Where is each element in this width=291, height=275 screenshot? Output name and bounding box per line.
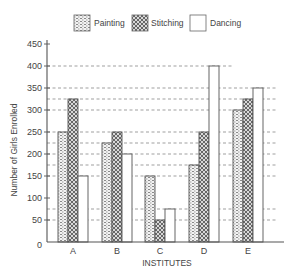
legend: Painting Stitching Dancing [74, 15, 241, 31]
bar-painting-d [189, 165, 199, 242]
bar-dancing-d [209, 66, 219, 242]
bar-stitching-a [68, 99, 78, 242]
legend-label-stitching: Stitching [151, 18, 184, 28]
y-tick-label: 400 [27, 61, 42, 71]
bar-group-d [189, 66, 219, 242]
bar-dancing-e [253, 88, 263, 242]
x-tick-label-b: B [114, 246, 120, 256]
y-tick-label: 300 [27, 105, 42, 115]
bar-group-e [233, 88, 263, 242]
x-axis-title: INSTITUTES [142, 258, 192, 268]
y-tick-label: 200 [27, 149, 42, 159]
bar-chart: Painting Stitching Dancing 0501001502002… [0, 0, 291, 275]
y-tick-label: 150 [27, 171, 42, 181]
bar-stitching-e [243, 99, 253, 242]
bar-group-a [58, 99, 88, 242]
dancing-swatch [190, 15, 206, 31]
bar-stitching-c [155, 220, 165, 242]
legend-item-painting: Painting [74, 15, 125, 31]
y-tick-label: 100 [27, 193, 42, 203]
stitching-swatch [132, 15, 148, 31]
x-tick-label-c: C [157, 246, 164, 256]
x-tick-label-e: E [245, 246, 251, 256]
legend-item-stitching: Stitching [132, 15, 184, 31]
y-tick-label: 450 [27, 39, 42, 49]
y-tick-label: 250 [27, 127, 42, 137]
bar-painting-a [58, 132, 68, 242]
x-tick-label-a: A [70, 246, 76, 256]
bar-dancing-a [78, 176, 88, 242]
bars [58, 66, 263, 242]
painting-swatch [74, 15, 90, 31]
x-tick-label-d: D [201, 246, 208, 256]
legend-item-dancing: Dancing [190, 15, 241, 31]
bar-dancing-b [122, 154, 132, 242]
bar-painting-e [233, 110, 243, 242]
bar-group-b [102, 132, 132, 242]
bar-painting-b [102, 143, 112, 242]
y-axis-title: Number of Girls Enrolled [9, 103, 19, 196]
y-tick-label: 350 [27, 83, 42, 93]
legend-label-dancing: Dancing [210, 18, 241, 28]
bar-dancing-c [165, 209, 175, 242]
y-tick-label: 0 [37, 240, 42, 250]
bar-stitching-b [112, 132, 122, 242]
y-tick-label: 50 [32, 215, 42, 225]
bar-stitching-d [199, 132, 209, 242]
legend-label-painting: Painting [94, 18, 125, 28]
bar-painting-c [145, 176, 155, 242]
